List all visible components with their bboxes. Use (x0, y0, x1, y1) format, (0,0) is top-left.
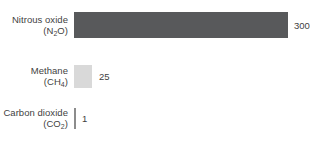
formula-subscript: 2 (61, 123, 65, 130)
bar-value-carbon-dioxide: 1 (76, 113, 87, 124)
greenhouse-gas-bar-chart: Nitrous oxide (N2O) 300 Methane (CH4) 25… (0, 0, 326, 145)
bar-value-nitrous-oxide: 300 (288, 20, 310, 31)
bar-value-methane: 25 (92, 71, 110, 82)
bar-row: Carbon dioxide (CO2) 1 (0, 106, 326, 130)
formula-subscript: 4 (61, 81, 65, 88)
category-label-carbon-dioxide: Carbon dioxide (CO2) (0, 107, 74, 130)
formula-suffix: O) (57, 25, 68, 36)
formula-prefix: (N (43, 25, 53, 36)
category-label-line1: Nitrous oxide (12, 14, 68, 25)
category-label-line1: Methane (31, 65, 68, 76)
bar-wrap: 300 (74, 12, 326, 38)
bar-methane (74, 65, 92, 88)
formula-subscript: 2 (53, 30, 57, 37)
bar-row: Methane (CH4) 25 (0, 64, 326, 88)
formula-suffix: ) (65, 118, 68, 129)
bar-wrap: 25 (74, 65, 326, 88)
category-label-formula: (CH4) (0, 76, 68, 88)
category-label-nitrous-oxide: Nitrous oxide (N2O) (0, 14, 74, 37)
category-label-line1: Carbon dioxide (3, 107, 68, 118)
formula-suffix: ) (65, 76, 68, 87)
bar-row: Nitrous oxide (N2O) 300 (0, 12, 326, 38)
category-label-formula: (N2O) (0, 25, 68, 37)
category-label-methane: Methane (CH4) (0, 65, 74, 88)
formula-prefix: (CH (44, 76, 61, 87)
bar-nitrous-oxide (74, 12, 288, 38)
bar-wrap: 1 (74, 108, 326, 129)
category-label-formula: (CO2) (0, 118, 68, 130)
formula-prefix: (CO (43, 118, 61, 129)
